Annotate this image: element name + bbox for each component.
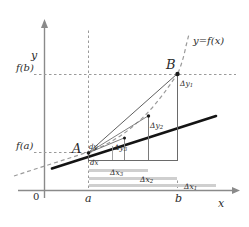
x-axis-arrowhead [232, 187, 240, 194]
delta-x1-label: Δx1 [184, 183, 197, 192]
delta-x3-subscript: 3 [120, 171, 123, 177]
delta-y2-symbol: Δy [150, 121, 160, 130]
delta-y2-subscript: 2 [160, 124, 163, 130]
function-curve-extension [178, 34, 189, 73]
secant-lines-group [88, 74, 177, 153]
point-P3-marker [123, 137, 126, 140]
differential-label-dx: dx [90, 160, 98, 167]
origin-label: 0 [33, 192, 39, 202]
delta-y3-symbol: Δy [114, 143, 124, 152]
delta-x2-symbol: Δx [140, 175, 150, 184]
delta-x3-symbol: Δx [110, 168, 120, 177]
delta-y3-subscript: 3 [124, 146, 127, 152]
differential-label-dy: dy [89, 144, 97, 151]
secant-line-1 [88, 74, 177, 153]
derivative-secant-figure: y x 0 f(b) f(a) a b y=f(x) A B dy dx Δy1… [0, 0, 249, 227]
delta-x1-subscript: 1 [194, 185, 197, 191]
point-A-marker [87, 151, 91, 155]
delta-x2-subscript: 2 [150, 178, 153, 184]
delta-x3-label: Δx3 [110, 169, 123, 178]
y-axis-arrowhead [41, 19, 48, 28]
x-tick-label-b: b [175, 193, 182, 204]
delta-x2-label: Δx2 [140, 176, 153, 185]
y-tick-label-fb: f(b) [16, 63, 34, 73]
delta-y1-label: Δy1 [180, 80, 193, 89]
y-axis-label: y [31, 50, 37, 61]
delta-y1-symbol: Δy [180, 79, 190, 88]
point-B-marker [175, 72, 179, 76]
point-label-A: A [72, 142, 81, 155]
y-tick-label-fa: f(a) [16, 141, 33, 151]
point-P2-marker [147, 114, 150, 117]
point-label-B: B [166, 58, 176, 71]
delta-x1-symbol: Δx [184, 182, 194, 191]
delta-y2-label: Δy2 [150, 122, 163, 131]
delta-y1-subscript: 1 [190, 82, 193, 88]
delta-y3-label: Δy3 [114, 144, 127, 153]
curve-equation-label: y=f(x) [193, 36, 224, 46]
x-tick-label-a: a [85, 193, 92, 204]
x-axis-label: x [218, 198, 224, 209]
